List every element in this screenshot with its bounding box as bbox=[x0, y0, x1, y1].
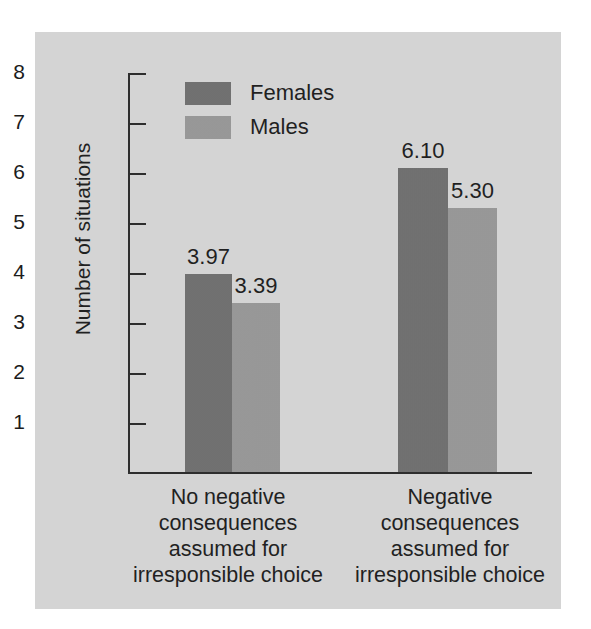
y-tick-label-3: 3 bbox=[13, 312, 25, 332]
y-tick-label-2: 2 bbox=[13, 362, 25, 382]
y-tick-4: 4 bbox=[35, 273, 146, 275]
y-tick-3: 3 bbox=[35, 323, 146, 325]
x-category-label-1-line-1: consequences bbox=[325, 510, 575, 536]
legend-swatch-males-icon bbox=[185, 116, 231, 139]
plot-area: Number of situations 8 7 6 5 4 3 bbox=[35, 32, 561, 609]
y-tick-label-6: 6 bbox=[13, 162, 25, 182]
y-tick-1: 1 bbox=[35, 423, 146, 425]
y-tick-label-4: 4 bbox=[13, 262, 25, 282]
bar-males-group0: 3.39 bbox=[232, 303, 280, 472]
y-tick-label-1: 1 bbox=[13, 412, 25, 432]
x-category-label-1-line-3: irresponsible choice bbox=[325, 562, 575, 588]
bar-males-group1: 5.30 bbox=[448, 208, 497, 472]
y-tick-label-7: 7 bbox=[13, 112, 25, 132]
x-axis-line bbox=[128, 472, 532, 474]
y-tick-7: 7 bbox=[35, 123, 146, 125]
bar-females-group0: 3.97 bbox=[185, 274, 232, 472]
bar-value-label-males-group1: 5.30 bbox=[451, 178, 494, 204]
bar-value-label-females-group0: 3.97 bbox=[187, 244, 230, 270]
y-tick-8: 8 bbox=[35, 73, 146, 75]
y-tick-label-5: 5 bbox=[13, 212, 25, 232]
legend-item-females: Females bbox=[185, 78, 334, 108]
legend-item-males: Males bbox=[185, 112, 334, 142]
legend-label-females: Females bbox=[250, 80, 334, 106]
legend: Females Males bbox=[185, 78, 334, 146]
y-tick-label-8: 8 bbox=[13, 62, 25, 82]
x-category-label-1-line-2: assumed for bbox=[325, 536, 575, 562]
x-category-label-1-line-0: Negative bbox=[325, 484, 575, 510]
legend-swatch-females-icon bbox=[185, 82, 231, 105]
legend-label-males: Males bbox=[250, 114, 309, 140]
y-tick-5: 5 bbox=[35, 223, 146, 225]
chart-panel: Number of situations 8 7 6 5 4 3 bbox=[35, 32, 561, 609]
bar-females-group1: 6.10 bbox=[398, 168, 448, 472]
y-tick-6: 6 bbox=[35, 173, 146, 175]
bar-value-label-females-group1: 6.10 bbox=[402, 138, 445, 164]
y-tick-2: 2 bbox=[35, 373, 146, 375]
x-category-label-1: Negative consequences assumed for irresp… bbox=[325, 484, 575, 588]
y-axis-title: Number of situations bbox=[71, 129, 95, 349]
bar-value-label-males-group0: 3.39 bbox=[235, 273, 278, 299]
